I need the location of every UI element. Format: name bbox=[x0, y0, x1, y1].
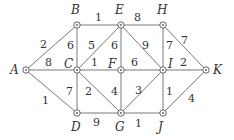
node-label-J: J bbox=[155, 120, 164, 134]
edge-weight-A-B: 2 bbox=[40, 38, 47, 51]
node-label-A: A bbox=[9, 63, 19, 77]
node-label-D: D bbox=[70, 120, 81, 134]
edge-weight-H-I: 7 bbox=[166, 39, 173, 52]
node-center-dot bbox=[25, 69, 27, 71]
node-center-dot bbox=[76, 24, 78, 26]
edge-weight-E-F: 6 bbox=[111, 39, 118, 52]
node-label-G: G bbox=[115, 120, 125, 134]
node-label-K: K bbox=[212, 63, 223, 77]
edge-weight-D-G: 9 bbox=[93, 116, 100, 129]
edge-G-I bbox=[121, 70, 163, 113]
node-center-dot bbox=[162, 112, 164, 114]
edge-weight-G-I: 3 bbox=[135, 84, 142, 97]
edge-weight-C-G: 2 bbox=[85, 85, 92, 98]
node-center-dot bbox=[120, 69, 122, 71]
node-label-C: C bbox=[64, 57, 73, 71]
node-center-dot bbox=[120, 112, 122, 114]
node-center-dot bbox=[76, 112, 78, 114]
node-center-dot bbox=[120, 24, 122, 26]
edge-weight-C-E: 5 bbox=[88, 39, 95, 52]
node-center-dot bbox=[162, 24, 164, 26]
node-label-F: F bbox=[107, 57, 117, 71]
edge-weight-E-H: 8 bbox=[134, 11, 141, 24]
edge-weight-A-C: 8 bbox=[45, 56, 52, 69]
weighted-graph-diagram: 2816156189677272431491 ABEHCFIKDGJ bbox=[0, 0, 234, 140]
node-label-I: I bbox=[167, 57, 173, 71]
edge-weight-G-J: 1 bbox=[135, 117, 142, 130]
edge-weight-B-E: 1 bbox=[95, 11, 102, 24]
edge-weight-C-D: 7 bbox=[66, 85, 73, 98]
edge-weight-F-I: 6 bbox=[131, 56, 138, 69]
edge-weight-C-F: 1 bbox=[91, 56, 98, 69]
node-label-H: H bbox=[156, 3, 168, 17]
node-label-B: B bbox=[70, 3, 80, 17]
edge-weight-E-I: 9 bbox=[142, 39, 149, 52]
edge-weight-B-C: 6 bbox=[67, 39, 74, 52]
node-center-dot bbox=[205, 69, 207, 71]
edge-weight-J-K: 4 bbox=[188, 92, 195, 105]
edge-weight-I-J: 1 bbox=[166, 85, 173, 98]
edge-weight-H-K: 7 bbox=[181, 34, 188, 47]
edge-weight-A-D: 1 bbox=[42, 94, 49, 107]
node-center-dot bbox=[162, 69, 164, 71]
node-label-E: E bbox=[114, 3, 124, 17]
node-labels: ABEHCFIKDGJ bbox=[9, 3, 223, 134]
edge-weight-I-K: 2 bbox=[180, 56, 187, 69]
edge-weight-F-G: 4 bbox=[111, 85, 118, 98]
node-center-dot bbox=[76, 69, 78, 71]
